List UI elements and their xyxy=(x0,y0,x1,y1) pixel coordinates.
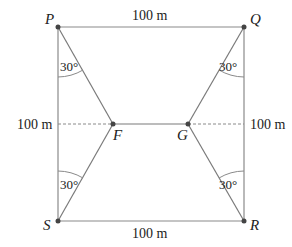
point-q xyxy=(242,25,247,30)
point-p xyxy=(56,25,61,30)
label-g: G xyxy=(177,127,188,143)
square-road-diagram: P Q S R F G 100 m 100 m 100 m 100 m 30° … xyxy=(0,0,292,247)
road-rg xyxy=(188,124,244,221)
point-f xyxy=(111,122,116,127)
angle-label-r: 30° xyxy=(219,177,237,192)
angle-label-s: 30° xyxy=(60,177,78,192)
label-f: F xyxy=(112,127,123,143)
dimension-right: 100 m xyxy=(250,117,286,132)
angle-label-p: 30° xyxy=(60,59,78,74)
point-s xyxy=(56,219,61,224)
angle-label-q: 30° xyxy=(219,59,237,74)
road-sf xyxy=(58,124,113,221)
road-pf xyxy=(58,27,113,124)
label-p: P xyxy=(44,11,54,27)
label-q: Q xyxy=(250,11,261,27)
dimension-bottom: 100 m xyxy=(132,226,168,241)
label-r: R xyxy=(249,217,259,233)
road-qg xyxy=(188,27,244,124)
dimension-left: 100 m xyxy=(17,117,53,132)
point-g xyxy=(186,122,191,127)
point-r xyxy=(242,219,247,224)
dimension-top: 100 m xyxy=(132,8,168,23)
label-s: S xyxy=(43,217,51,233)
